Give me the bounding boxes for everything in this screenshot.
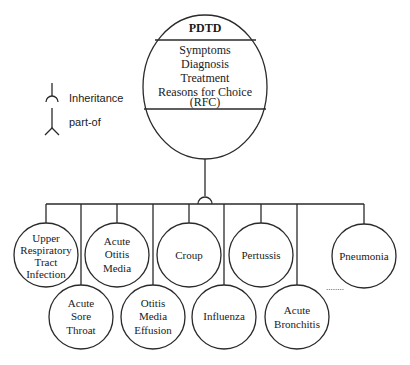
node-label: Pertussis [241,249,280,261]
legend-inheritance: Inheritance [46,83,123,104]
root-attr-symptoms: Symptoms [179,43,231,57]
node-label: Otitis [141,297,165,309]
node-label: Upper [32,232,60,244]
node-label: Respiratory [20,244,72,256]
child-node-acute-otitis-media: Acute Otitis Media [85,223,149,287]
legend-partof-label: part-of [69,116,102,128]
node-label: Acute [284,304,310,316]
child-node-croup: Croup [157,223,221,287]
node-label: Media [139,310,167,322]
child-node-otitis-media-effusion: Otitis Media Effusion [121,285,185,349]
legend: Inheritance part-of [45,83,123,135]
root-node-pdtd: PDTD Symptoms Diagnosis Treatment Reason… [143,15,267,159]
root-attr-diagnosis: Diagnosis [181,57,229,71]
child-node-pneumonia: Pneumonia [332,224,396,288]
legend-partof: part-of [45,108,102,135]
child-node-acute-bronchitis: Acute Bronchitis [265,285,329,349]
child-node-influenza: Influenza [192,285,256,349]
inheritance-connector [46,159,364,204]
node-label: Acute [68,297,94,309]
root-attr-treatment: Treatment [181,71,231,85]
node-label: Acute [104,235,130,247]
node-label: Pneumonia [339,250,389,262]
inheritance-symbol-icon [46,96,58,102]
child-node-acute-sore-throat: Acute Sore Throat [49,285,113,349]
root-attr-rfc-abbr: (RFC) [190,95,221,109]
node-label: Effusion [134,324,172,336]
pdtd-diagram: PDTD Symptoms Diagnosis Treatment Reason… [0,0,410,365]
child-node-upper-respiratory-tract-infection: Upper Respiratory Tract Infection [14,223,78,287]
node-label: Bronchitis [274,318,320,330]
node-label: Influenza [203,310,245,322]
node-label: Croup [175,249,203,261]
node-label: Throat [66,324,95,336]
more-children-ellipsis: ........ [326,282,344,292]
legend-inheritance-label: Inheritance [69,92,123,104]
node-circle [265,285,329,349]
node-label: Infection [26,268,66,280]
inheritance-arc-icon [198,197,212,204]
root-title: PDTD [189,21,222,35]
child-node-pertussis: Pertussis [229,223,293,287]
partof-fork-icon [45,128,59,135]
node-label: Media [103,262,131,274]
node-label: Tract [35,256,58,268]
node-label: Otitis [105,248,129,260]
node-label: Sore [71,310,91,322]
